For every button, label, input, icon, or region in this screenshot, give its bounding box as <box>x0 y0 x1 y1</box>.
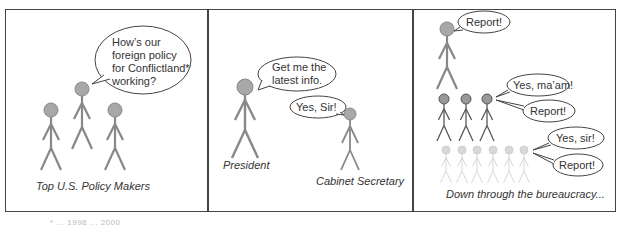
bubble-text-report-3: Report! <box>559 159 595 172</box>
bubble-text-president: Get me the latest info. <box>272 61 326 87</box>
caption-bureaucracy: Down through the bureaucracy... <box>446 188 605 201</box>
caption-policy-makers: Top U.S. Policy Makers <box>36 180 150 193</box>
bubble-text-policy-question: How’s our foreign policy for Conflictlan… <box>112 36 190 88</box>
caption-president: President <box>223 159 269 172</box>
bubble-text-secretary: Yes, Sir! <box>296 101 337 114</box>
bubble-text-yes-sir: Yes, sir! <box>556 132 595 145</box>
bubble-text-yes-maam: Yes, ma’am! <box>513 79 573 92</box>
president-figure <box>232 92 258 158</box>
footnote: * ... 1998 ... 2000 <box>50 218 120 225</box>
bubble-text-report-1: Report! <box>466 16 502 29</box>
bubble-text-report-2: Report! <box>530 105 566 118</box>
secretary-figure <box>341 119 359 170</box>
caption-cabinet-secretary: Cabinet Secretary <box>316 175 404 188</box>
